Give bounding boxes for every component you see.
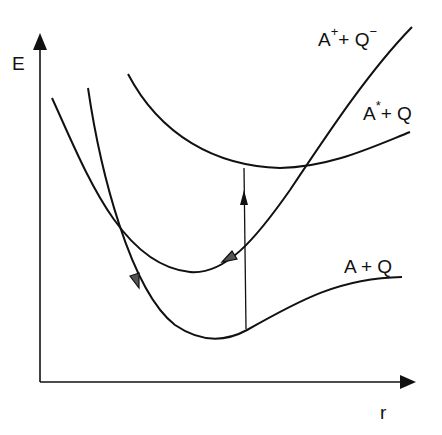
label-excited: A*+ Q	[363, 102, 412, 123]
up-arrowhead-icon	[240, 190, 248, 205]
down-arrowhead-icon	[130, 273, 139, 288]
curve-ionic	[52, 27, 412, 272]
x-axis	[40, 375, 416, 389]
y-axis-label: E	[12, 54, 25, 73]
label-ground: A + Q	[344, 257, 392, 276]
x-axis-label: r	[380, 403, 386, 422]
y-axis-arrow-icon	[33, 33, 47, 50]
y-axis	[33, 33, 47, 382]
down-left-arrowhead-icon	[222, 251, 237, 262]
x-axis-arrow-icon	[400, 375, 416, 389]
energy-diagram	[0, 0, 442, 435]
label-ionic: A++ Q−	[318, 28, 377, 49]
